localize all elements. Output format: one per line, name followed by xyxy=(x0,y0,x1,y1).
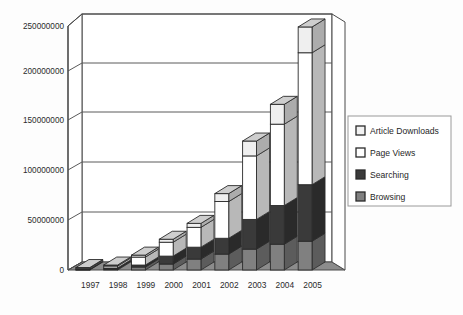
bar-segment-searching xyxy=(159,256,173,264)
y-tick-label: 250000000 xyxy=(23,22,64,31)
bar-group xyxy=(243,133,270,270)
bar-segment-browsing xyxy=(215,254,229,270)
legend: Article Downloads Page Views Searching B… xyxy=(348,116,451,206)
plot-right-wall xyxy=(332,14,345,270)
bar-group xyxy=(215,186,242,270)
stacked-bar-chart: 250000000 200000000 150000000 100000000 … xyxy=(0,0,463,315)
y-tick-label: 0 xyxy=(59,266,64,275)
bar-segment-browsing xyxy=(159,264,173,270)
x-axis-label-2003: 2003 xyxy=(248,280,267,290)
legend-swatch-page-views xyxy=(356,148,365,157)
bar-segment-page-views xyxy=(159,242,173,256)
bar-segment-searching xyxy=(270,206,284,245)
legend-label-browsing: Browsing xyxy=(370,192,406,202)
bar-segment-side xyxy=(312,177,325,242)
y-tick-label: 150000000 xyxy=(23,116,64,125)
bar-segment-side xyxy=(257,148,270,219)
x-axis-label-2000: 2000 xyxy=(164,280,183,290)
bar-segment-searching xyxy=(298,185,312,242)
x-axis-label-1998: 1998 xyxy=(109,280,128,290)
bar-group xyxy=(187,215,214,270)
legend-label-page-views: Page Views xyxy=(370,148,415,158)
bar-segment-article-downloads xyxy=(187,223,201,227)
bar-segment-browsing xyxy=(187,259,201,270)
legend-swatch-browsing xyxy=(356,192,365,201)
bar-segment-article-downloads xyxy=(270,104,284,124)
y-tick-label: 50000000 xyxy=(28,216,65,225)
bar-segment-article-downloads xyxy=(215,194,229,202)
bar-segment-browsing xyxy=(270,244,284,270)
bar-segment-page-views xyxy=(132,257,146,265)
x-axis-label-2005: 2005 xyxy=(303,280,322,290)
x-axis-label-2002: 2002 xyxy=(220,280,239,290)
x-axis-label-2001: 2001 xyxy=(192,280,211,290)
y-tick-label: 100000000 xyxy=(23,166,64,175)
legend-swatch-article-downloads xyxy=(356,126,365,135)
y-tick-label: 200000000 xyxy=(23,67,64,76)
bar-segment-searching xyxy=(243,219,257,249)
legend-swatch-searching xyxy=(356,170,365,179)
bar-segment-searching xyxy=(215,238,229,254)
bar-segment-browsing xyxy=(298,241,312,270)
bar-segment-page-views xyxy=(298,53,312,185)
bar-segment-article-downloads xyxy=(243,141,257,156)
x-axis-category-labels: 199719981999200020012002200320042005 xyxy=(81,280,322,290)
legend-label-searching: Searching xyxy=(370,170,409,180)
bar-segment-searching xyxy=(187,247,201,259)
bar-group xyxy=(270,96,297,270)
bar-segment-page-views xyxy=(243,156,257,219)
plot-left-wall xyxy=(68,14,82,270)
x-axis-label-2004: 2004 xyxy=(276,280,295,290)
x-axis-label-1999: 1999 xyxy=(137,280,156,290)
bar-segment-page-views xyxy=(215,202,229,239)
legend-label-article-downloads: Article Downloads xyxy=(370,126,439,136)
bar-segment-side xyxy=(284,116,297,205)
bar-group xyxy=(159,231,186,270)
x-axis-label-1997: 1997 xyxy=(81,280,100,290)
bar-segment-page-views xyxy=(187,227,201,247)
chart-canvas: 250000000 200000000 150000000 100000000 … xyxy=(0,0,463,315)
bar-segment-page-views xyxy=(270,124,284,205)
bar-group xyxy=(298,19,325,270)
bar-segment-browsing xyxy=(243,249,257,270)
bar-segment-side xyxy=(312,45,325,185)
bar-segment-article-downloads xyxy=(298,27,312,53)
